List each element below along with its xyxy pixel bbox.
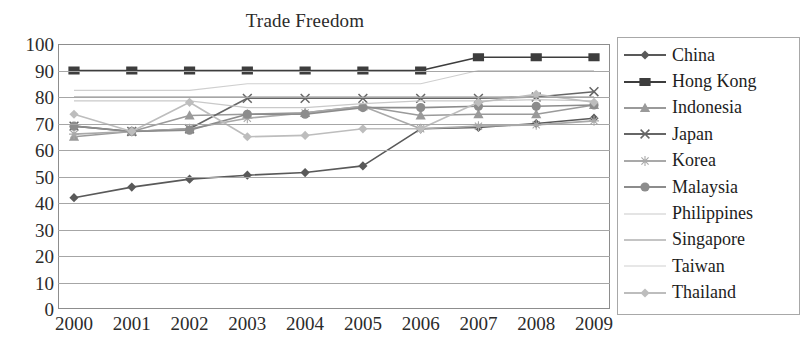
legend-item-malaysia[interactable]: Malaysia (622, 174, 797, 200)
data-point-marker (127, 183, 136, 192)
x-tick-label: 2004 (275, 313, 335, 335)
gridline (58, 150, 610, 151)
legend-item-singapore[interactable]: Singapore (622, 227, 797, 253)
gridline (58, 124, 610, 125)
legend-marker-icon (622, 255, 668, 277)
series-taiwan (74, 71, 594, 91)
x-tick-label: 2009 (564, 313, 624, 335)
y-tick-label: 80 (2, 88, 54, 107)
legend-item-label: Korea (668, 150, 716, 171)
legend-marker-icon (622, 97, 668, 119)
data-point-marker (69, 122, 78, 131)
x-tick-label: 2002 (160, 313, 220, 335)
gridline (58, 177, 610, 178)
legend-item-label: Hong Kong (668, 71, 757, 92)
legend-marker-icon (622, 150, 668, 172)
y-axis: 1009080706050403020100 (0, 44, 54, 309)
legend-marker-icon (622, 282, 668, 304)
legend-item-indonesia[interactable]: Indonesia (622, 95, 797, 121)
legend-marker-icon (622, 203, 668, 225)
data-point-marker (639, 78, 650, 86)
legend-marker-icon (622, 71, 668, 93)
chart-title: Trade Freedom (0, 10, 610, 32)
x-tick-label: 2001 (102, 313, 162, 335)
y-tick-label: 30 (2, 220, 54, 239)
data-point-marker (531, 53, 542, 61)
y-tick-label: 20 (2, 247, 54, 266)
x-tick-label: 2005 (333, 313, 393, 335)
data-point-marker (532, 102, 541, 111)
data-point-marker (243, 110, 252, 119)
legend-item-korea[interactable]: Korea (622, 148, 797, 174)
data-point-marker (301, 168, 310, 177)
y-tick-label: 60 (2, 141, 54, 160)
data-point-marker (185, 98, 194, 107)
legend-marker-icon (622, 176, 668, 198)
legend-item-label: Singapore (668, 229, 745, 250)
chart-legend: ChinaHong KongIndonesiaJapanKoreaMalaysi… (617, 37, 800, 315)
legend-item-philippines[interactable]: Philippines (622, 200, 797, 226)
data-point-marker (301, 110, 310, 119)
data-point-marker (473, 121, 483, 131)
gridline (58, 283, 610, 284)
legend-item-taiwan[interactable]: Taiwan (622, 253, 797, 279)
legend-item-label: Malaysia (668, 177, 738, 198)
gridline (58, 71, 610, 72)
data-point-marker (640, 156, 650, 166)
data-point-marker (301, 131, 310, 140)
data-point-marker (185, 175, 194, 184)
data-point-marker (640, 183, 649, 192)
legend-items: ChinaHong KongIndonesiaJapanKoreaMalaysi… (622, 42, 797, 312)
legend-marker-icon (622, 44, 668, 66)
gridline (58, 97, 610, 98)
data-point-marker (243, 132, 252, 141)
data-point-marker (358, 161, 367, 170)
legend-item-china[interactable]: China (622, 42, 797, 68)
data-point-marker (640, 51, 649, 60)
data-point-marker (416, 103, 425, 112)
y-tick-label: 10 (2, 273, 54, 292)
y-tick-label: 100 (2, 35, 54, 54)
legend-item-label: Indonesia (668, 97, 742, 118)
x-tick-label: 2006 (391, 313, 451, 335)
y-tick-label: 40 (2, 194, 54, 213)
data-point-marker (588, 53, 599, 61)
x-axis: 2000200120022003200420052006200720082009 (58, 313, 610, 341)
legend-marker-icon (622, 229, 668, 251)
data-point-marker (473, 53, 484, 61)
data-point-marker (243, 171, 252, 180)
data-point-marker (69, 110, 78, 119)
y-tick-label: 70 (2, 114, 54, 133)
gridline (58, 230, 610, 231)
legend-item-japan[interactable]: Japan (622, 121, 797, 147)
legend-item-label: Thailand (668, 282, 736, 303)
x-tick-label: 2007 (448, 313, 508, 335)
gridline (58, 203, 610, 204)
data-point-marker (640, 288, 649, 297)
gridline (58, 256, 610, 257)
plot-area (58, 44, 610, 309)
data-point-marker (69, 193, 78, 202)
legend-item-label: Taiwan (668, 256, 725, 277)
legend-item-thailand[interactable]: Thailand (622, 280, 797, 306)
legend-item-label: China (668, 45, 715, 66)
data-point-marker (185, 126, 194, 135)
y-tick-label: 90 (2, 61, 54, 80)
y-tick-label: 50 (2, 167, 54, 186)
legend-marker-icon (622, 123, 668, 145)
legend-item-hong-kong[interactable]: Hong Kong (622, 68, 797, 94)
legend-item-label: Philippines (668, 203, 753, 224)
x-tick-label: 2003 (217, 313, 277, 335)
trade-freedom-line-chart: Trade Freedom 1009080706050403020100 200… (0, 0, 804, 344)
x-tick-label: 2000 (44, 313, 104, 335)
legend-item-label: Japan (668, 124, 713, 145)
data-point-marker (358, 124, 367, 133)
x-tick-label: 2008 (506, 313, 566, 335)
